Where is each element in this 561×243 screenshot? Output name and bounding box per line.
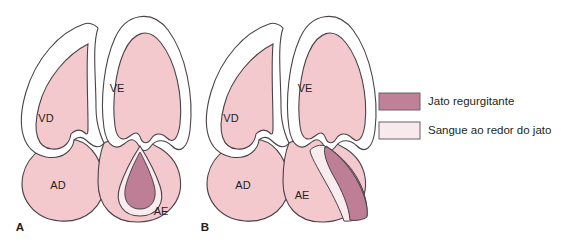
figure-root: VD VE AD AE A bbox=[0, 0, 561, 243]
panel-a-label-ae: AE bbox=[154, 205, 169, 217]
legend-label-sangue-ao-redor-do-jato: Sangue ao redor do jato bbox=[428, 124, 551, 136]
panel-b-label-ve: VE bbox=[298, 82, 313, 94]
panel-a-letter: A bbox=[16, 221, 24, 233]
panel-b-letter: B bbox=[201, 221, 209, 233]
heart-regurgitation-figure: VD VE AD AE A bbox=[0, 0, 561, 243]
panel-b-label-vd: VD bbox=[223, 112, 238, 124]
legend-swatch-sangue-ao-redor-do-jato bbox=[379, 122, 420, 139]
panel-a-label-ad: AD bbox=[50, 179, 65, 191]
legend-label-jato-regurgitante: Jato regurgitante bbox=[428, 95, 514, 107]
panel-a-label-vd: VD bbox=[38, 112, 53, 124]
panel-b-label-ad: AD bbox=[235, 179, 250, 191]
panel-a-label-ve: VE bbox=[110, 82, 125, 94]
legend-swatch-jato-regurgitante bbox=[379, 93, 420, 110]
panel-b-label-ae: AE bbox=[295, 189, 310, 201]
